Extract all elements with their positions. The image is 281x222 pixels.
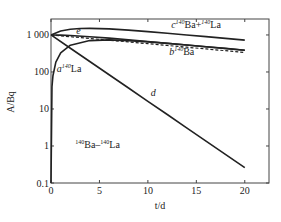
x-axis-label: t/d	[155, 200, 166, 211]
curve-labels: a140Lab140Bac140Ba+140Lade140Ba–140La	[57, 19, 222, 149]
x-tick-label: 10	[143, 185, 153, 196]
axes: 051015200.11101001 000	[27, 19, 270, 196]
series-d-line	[51, 35, 245, 168]
curves	[51, 28, 245, 183]
x-tick-label: 0	[49, 185, 54, 196]
decay-chain-annotation: 140Ba–140La	[75, 139, 120, 150]
x-tick-label: 5	[97, 185, 102, 196]
series-a-label: a140La	[57, 63, 82, 74]
series-d-label: d	[151, 87, 157, 98]
y-tick-label: 1	[44, 140, 49, 151]
y-axis-label: A/Bq	[5, 91, 16, 113]
y-tick-label: 10	[39, 103, 49, 114]
y-tick-label: 100	[34, 66, 49, 77]
y-tick-label: 1 000	[27, 29, 50, 40]
series-a-line	[51, 40, 245, 183]
x-tick-label: 20	[240, 185, 250, 196]
y-tick-label: 0.1	[37, 178, 50, 189]
series-b-label: b140Ba	[169, 46, 195, 57]
decay-chart: 051015200.11101001 000 a140Lab140Bac140B…	[0, 0, 281, 222]
x-tick-label: 15	[191, 185, 201, 196]
series-e-label: e	[76, 25, 81, 36]
series-c-label: c140Ba+140La	[171, 19, 221, 30]
